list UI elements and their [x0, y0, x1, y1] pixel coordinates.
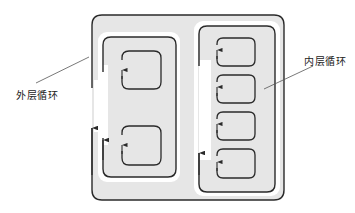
- loop-diagram: [0, 0, 355, 213]
- right-block-4: [217, 149, 255, 178]
- right-block-1: [217, 38, 255, 66]
- right-block-2: [217, 75, 255, 103]
- left-block-1: [122, 51, 161, 89]
- inner-loop-label: 内层循环: [304, 53, 346, 68]
- left-block-2: [122, 126, 161, 165]
- outer-loop-leader: [36, 57, 89, 83]
- outer-loop-label: 外层循环: [16, 87, 58, 102]
- right-block-3: [217, 112, 255, 140]
